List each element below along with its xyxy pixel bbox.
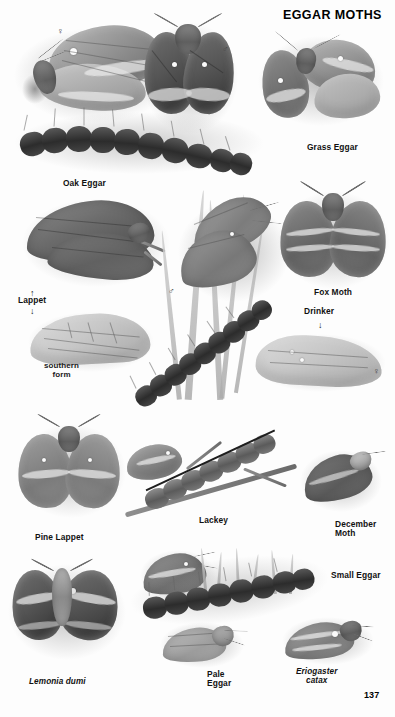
field-guide-plate: EGGAR MOTHS ♀ ♂ — [0, 0, 395, 717]
illustration-lappet — [22, 195, 170, 287]
label-grass-eggar: Grass Eggar — [307, 143, 358, 152]
label-december-moth: December Moth — [335, 520, 376, 539]
page-title: EGGAR MOTHS — [283, 8, 382, 22]
label-lappet: Lappet — [18, 296, 46, 305]
illustration-fox-moth — [278, 185, 390, 290]
illustration-grass-eggar — [258, 30, 384, 125]
sex-symbol-female-oak-eggar: ♀ — [57, 26, 64, 36]
label-pale-eggar: Pale Eggar — [207, 670, 231, 689]
sex-symbol-male-oak-eggar: ♂ — [222, 44, 229, 54]
label-drinker: Drinker — [304, 307, 334, 316]
illustration-oak-eggar-caterpillar — [14, 118, 264, 180]
drinker-arrow-down: ↓ — [318, 320, 323, 330]
label-lackey: Lackey — [199, 516, 228, 525]
illustration-pine-lappet — [16, 418, 126, 518]
illustration-lemonia-dumi — [8, 560, 126, 660]
illustration-pale-eggar — [160, 620, 244, 670]
label-southern-form: southern form — [44, 362, 79, 380]
label-fox-moth: Fox Moth — [314, 288, 352, 297]
label-lemonia-dumi: Lemonia dumi — [29, 677, 86, 686]
illustration-december-moth — [300, 448, 382, 514]
sex-symbol-male-drinker: ♂ — [168, 286, 175, 296]
page-number: 137 — [364, 690, 379, 700]
label-eriogaster-catax: Eriogaster catax — [296, 667, 338, 685]
illustration-lackey-moth — [126, 443, 188, 485]
label-oak-eggar: Oak Eggar — [63, 179, 106, 188]
label-small-eggar: Small Eggar — [331, 571, 381, 580]
illustration-eriogaster-catax — [282, 615, 374, 667]
sex-symbol-female-drinker: ♀ — [373, 366, 380, 376]
label-pine-lappet: Pine Lappet — [35, 533, 84, 542]
